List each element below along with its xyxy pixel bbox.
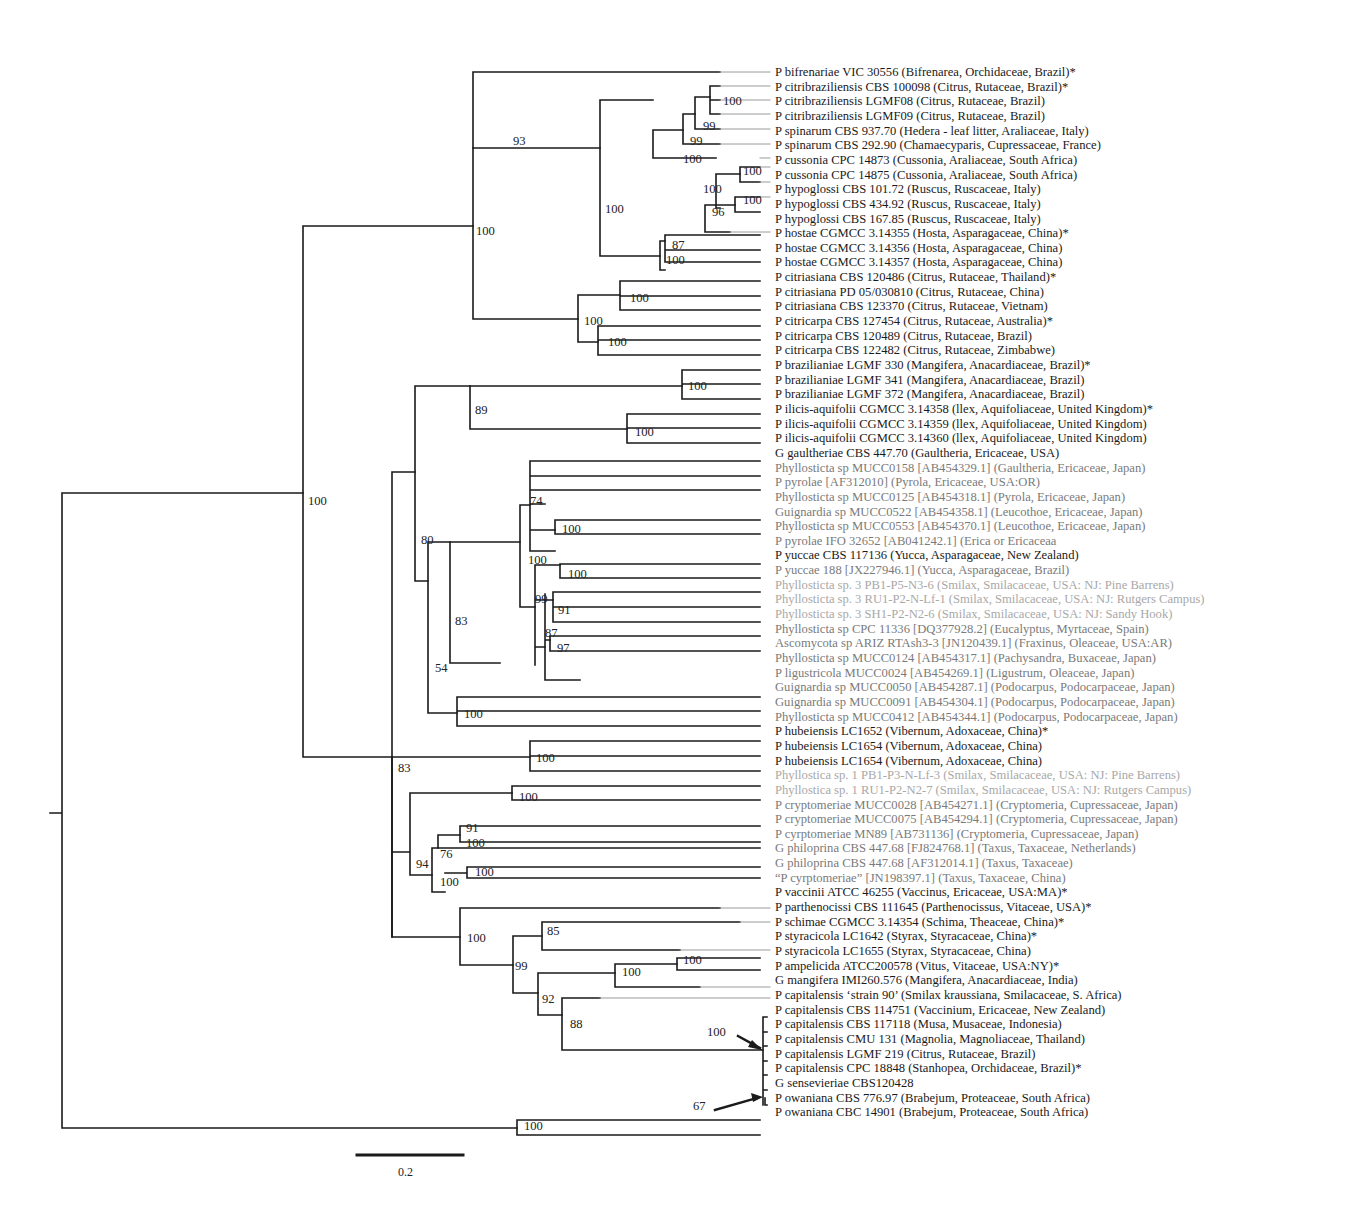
taxon-label: G gaultheriae CBS 447.70 (Gaultheria, Er… (775, 446, 1059, 460)
bootstrap-value: 100 (683, 152, 702, 166)
taxon-label: Phyllosticta sp MUCC0124 [AB454317.1] (P… (775, 651, 1156, 665)
bootstrap-value: 99 (515, 959, 528, 973)
bootstrap-value: 100 (562, 522, 581, 536)
taxon-label: P cussonia CPC 14875 (Cussonia, Araliace… (775, 168, 1077, 182)
bootstrap-value: 99 (535, 592, 548, 606)
bootstrap-value: 100 (584, 314, 603, 328)
bootstrap-value: 100 (605, 202, 624, 216)
taxon-label: P bifrenariae VIC 30556 (Bifrenarea, Orc… (775, 65, 1076, 79)
taxon-label: P capitalensis CMU 131 (Magnolia, Magnol… (775, 1032, 1085, 1046)
scale-bar-label: 0.2 (398, 1165, 413, 1179)
bootstrap-value: 100 (743, 164, 762, 178)
taxon-label: Phyllosticta sp. 3 PB1-P5-N3-6 (Smilax, … (775, 578, 1174, 592)
taxon-label: P hubeiensis LC1654 (Vibernum, Adoxaceae… (775, 739, 1042, 753)
taxon-label: P hypoglossi CBS 167.85 (Ruscus, Ruscace… (775, 212, 1041, 226)
bootstrap-value: 100 (683, 953, 702, 967)
bootstrap-value: 93 (513, 134, 526, 148)
taxon-label: P styracicola LC1642 (Styrax, Styracacea… (775, 929, 1037, 943)
taxon-label: Phyllostica sp. 1 RU1-P2-N2-7 (Smilax, S… (775, 783, 1191, 797)
taxon-label: P citribraziliensis CBS 100098 (Citrus, … (775, 80, 1068, 94)
taxon-label: P yuccae CBS 117136 (Yucca, Asparagaceae… (775, 548, 1079, 562)
bootstrap-value: 100 (476, 224, 495, 238)
taxon-label: P styracicola LC1655 (Styrax, Styracacea… (775, 944, 1031, 958)
taxon-label: P hostae CGMCC 3.14355 (Hosta, Asparagac… (775, 226, 1069, 240)
taxon-label: Ascomycota sp ARIZ RTAsh3-3 [JN120439.1]… (775, 636, 1172, 650)
bootstrap-value: 76 (440, 847, 453, 861)
bootstrap-value: 100 (308, 494, 327, 508)
bootstrap-value: 88 (570, 1017, 583, 1031)
taxon-label: P pyrolae [AF312010] (Pyrola, Ericaceae,… (775, 475, 1040, 489)
taxon-label: Phyllostica sp. 1 PB1-P3-N-Lf-3 (Smilax,… (775, 768, 1180, 782)
bootstrap-value: 96 (712, 205, 725, 219)
taxon-label: P brazilianiae LGMF 341 (Mangifera, Anac… (775, 373, 1084, 387)
taxon-label: P citribraziliensis LGMF09 (Citrus, Ruta… (775, 109, 1045, 123)
bootstrap-value: 89 (475, 403, 488, 417)
taxon-label: P cryptomeriae MUCC0028 [AB454271.1] (Cr… (775, 798, 1178, 812)
taxon-label: P ilicis-aquifolii CGMCC 3.14358 (llex, … (775, 402, 1153, 416)
bootstrap-value: 100 (467, 931, 486, 945)
taxon-label: P vaccinii ATCC 46255 (Vaccinus, Ericace… (775, 885, 1068, 899)
bootstrap-value: 83 (398, 761, 411, 775)
bootstrap-value: 54 (435, 661, 448, 675)
taxon-label: Guignardia sp MUCC0050 [AB454287.1] (Pod… (775, 680, 1175, 694)
taxon-label: Guignardia sp MUCC0091 [AB454304.1] (Pod… (775, 695, 1175, 709)
bootstrap-value: 87 (672, 238, 685, 252)
taxon-label: P owaniana CBS 776.97 (Brabejum, Proteac… (775, 1091, 1090, 1105)
bootstrap-value: 97 (557, 641, 570, 655)
taxon-label: P citriasiana CBS 120486 (Citrus, Rutace… (775, 270, 1056, 284)
bootstrap-value: 100 (519, 790, 538, 804)
taxon-label: P parthenocissi CBS 111645 (Parthenociss… (775, 900, 1092, 914)
bootstrap-value: 91 (466, 821, 479, 835)
taxon-label: P spinarum CBS 937.70 (Hedera - leaf lit… (775, 124, 1089, 138)
taxon-label: P pyrolae IFO 32652 [AB041242.1] (Erica … (775, 534, 1056, 548)
taxon-label: Phyllosticta sp MUCC0158 [AB454329.1] (G… (775, 461, 1145, 475)
taxon-label: P spinarum CBS 292.90 (Chamaecyparis, Cu… (775, 138, 1101, 152)
bootstrap-value: 100 (688, 379, 707, 393)
bootstrap-value: 99 (703, 119, 716, 133)
taxon-label: P brazilianiae LGMF 372 (Mangifera, Anac… (775, 387, 1084, 401)
bootstrap-value: 100 (635, 425, 654, 439)
bootstrap-value: 100 (622, 965, 641, 979)
taxon-label: P schimae CGMCC 3.14354 (Schima, Theacea… (775, 915, 1064, 929)
taxon-label: P owaniana CBC 14901 (Brabejum, Proteace… (775, 1105, 1088, 1119)
taxon-label: P ilicis-aquifolii CGMCC 3.14359 (llex, … (775, 417, 1147, 431)
bootstrap-value: 99 (690, 134, 703, 148)
taxon-label: Phyllosticta sp MUCC0553 [AB454370.1] (L… (775, 519, 1145, 533)
taxon-label: P citriasiana CBS 123370 (Citrus, Rutace… (775, 299, 1048, 313)
taxon-label: G mangifera IMI260.576 (Mangifera, Anaca… (775, 973, 1078, 987)
bootstrap-value: 100 (568, 567, 587, 581)
bootstrap-value: 100 (536, 751, 555, 765)
taxon-label: Phyllosticta sp. 3 RU1-P2-N-Lf-1 (Smilax… (775, 592, 1205, 606)
taxon-label: G philoprina CBS 447.68 [FJ824768.1] (Ta… (775, 841, 1136, 855)
bootstrap-value: 80 (421, 533, 434, 547)
taxon-label: G philoprina CBS 447.68 [AF312014.1] (Ta… (775, 856, 1073, 870)
bootstrap-value: 100 (466, 836, 485, 850)
bootstrap-value: 100 (630, 291, 649, 305)
bootstrap-value: 100 (666, 253, 685, 267)
bootstrap-value: 100 (723, 94, 742, 108)
taxon-label: P hypoglossi CBS 101.72 (Ruscus, Ruscace… (775, 182, 1041, 196)
taxon-label: P capitalensis CPC 18848 (Stanhopea, Orc… (775, 1061, 1082, 1075)
taxon-label: P hostae CGMCC 3.14357 (Hosta, Asparagac… (775, 255, 1062, 269)
taxon-label: Phyllosticta sp MUCC0125 [AB454318.1] (P… (775, 490, 1125, 504)
bootstrap-value: 100 (528, 553, 547, 567)
taxon-label: P capitalensis LGMF 219 (Citrus, Rutacea… (775, 1047, 1035, 1061)
taxon-label: P citribraziliensis LGMF08 (Citrus, Ruta… (775, 94, 1045, 108)
taxon-label: P ampelicida ATCC200578 (Vitus, Vitaceae… (775, 959, 1059, 973)
taxon-label: P hubeiensis LC1652 (Vibernum, Adoxaceae… (775, 724, 1048, 738)
taxon-label: “P cyrptomeriae” [JN198397.1] (Taxus, Ta… (775, 871, 1066, 885)
bootstrap-value: 83 (455, 614, 468, 628)
tree-branches (50, 72, 770, 1155)
taxon-label: P capitalensis ‘strain 90’ (Smilax kraus… (775, 988, 1122, 1002)
taxon-label: Guignardia sp MUCC0522 [AB454358.1] (Leu… (775, 505, 1143, 519)
bootstrap-value: 100 (608, 335, 627, 349)
bootstrap-value: 100 (440, 875, 459, 889)
bootstrap-value: 92 (542, 992, 555, 1006)
taxon-label: P citriasiana PD 05/030810 (Citrus, Ruta… (775, 285, 1044, 299)
taxon-label: P citricarpa CBS 122482 (Citrus, Rutacea… (775, 343, 1055, 357)
taxon-label: P brazilianiae LGMF 330 (Mangifera, Anac… (775, 358, 1091, 372)
bootstrap-value: 87 (545, 626, 558, 640)
bootstrap-value: 100 (707, 1025, 726, 1039)
bootstrap-value: 100 (524, 1119, 543, 1133)
taxon-label: P cyrptomeriae MN89 [AB731136] (Cryptome… (775, 827, 1138, 841)
